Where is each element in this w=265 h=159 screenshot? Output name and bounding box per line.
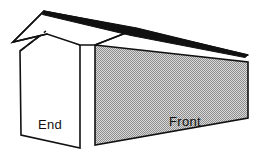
diagram-canvas: End Front — [0, 0, 265, 159]
end-face-label: End — [38, 117, 62, 132]
building-diagram: End Front — [0, 0, 265, 159]
front-face-label: Front — [169, 114, 201, 129]
